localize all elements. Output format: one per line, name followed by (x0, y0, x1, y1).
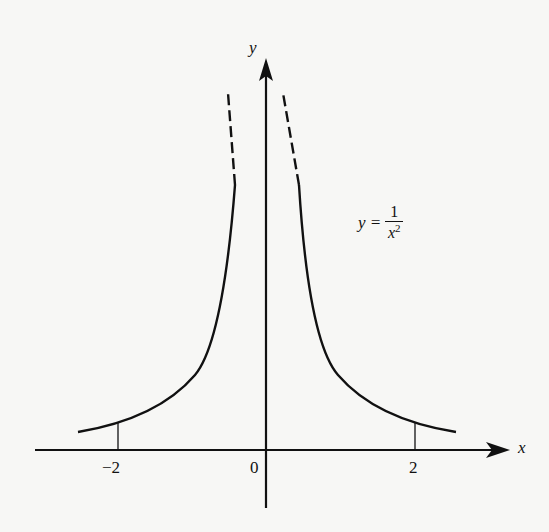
plot-canvas (0, 0, 549, 532)
equation-lhs: y = (358, 213, 381, 233)
equation-denominator-base: x (388, 225, 395, 242)
equation-label: y = 1 x2 (358, 203, 403, 243)
origin-label: 0 (250, 458, 259, 478)
x-axis-label: x (518, 438, 526, 458)
curve-left-solid (78, 185, 235, 432)
equation-numerator: 1 (390, 203, 398, 221)
tick-label-neg2: −2 (102, 458, 120, 478)
curve-right-dashed (283, 93, 299, 185)
curve-left-dashed (228, 93, 235, 185)
tick-label-2: 2 (409, 458, 418, 478)
y-axis-label: y (249, 38, 257, 58)
equation-denominator-exponent: 2 (395, 222, 401, 234)
